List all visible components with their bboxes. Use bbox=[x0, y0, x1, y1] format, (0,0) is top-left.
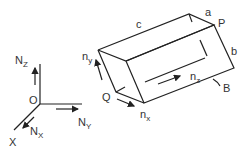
b-leader-line bbox=[213, 79, 220, 86]
hidden-edge-stub bbox=[200, 40, 207, 56]
box-body: c a P b B Q ny nz nx bbox=[82, 6, 237, 123]
edge-label-b: b bbox=[231, 45, 237, 57]
origin-label: O bbox=[29, 94, 38, 106]
x-axis-label: X bbox=[9, 136, 17, 148]
global-frame: NZ O NY NX X bbox=[9, 54, 92, 148]
nx-label: NX bbox=[30, 125, 44, 140]
ny-local-label: ny bbox=[82, 50, 92, 65]
point-label-q: Q bbox=[102, 91, 111, 103]
nz-local-arrow-icon bbox=[158, 76, 180, 84]
nz-label: NZ bbox=[15, 54, 28, 69]
rigid-body-diagram: NZ O NY NX X c a P b B Q ny nz nx bbox=[0, 0, 250, 151]
point-label-b: B bbox=[223, 82, 230, 94]
hidden-edge-stub bbox=[116, 87, 125, 92]
box-top-face bbox=[98, 14, 214, 61]
box-front-face bbox=[126, 25, 234, 103]
ny-local-arrow-icon bbox=[96, 60, 102, 80]
edge-label-a: a bbox=[205, 6, 212, 18]
nx-local-label: nx bbox=[140, 108, 150, 123]
edge-label-c: c bbox=[136, 18, 142, 30]
point-label-p: P bbox=[218, 17, 225, 29]
ny-label: NY bbox=[78, 116, 92, 131]
nx-local-arrow-icon bbox=[117, 99, 134, 106]
